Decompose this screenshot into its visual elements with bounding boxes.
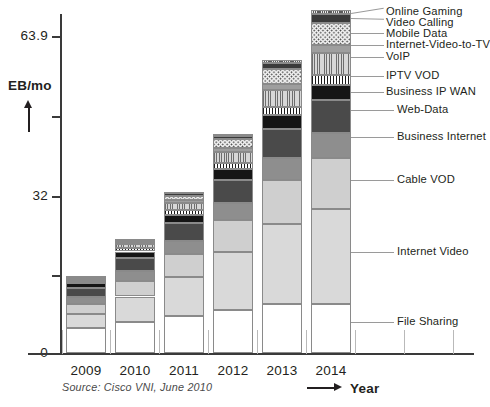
leader-line-video-calling [351,18,384,20]
leader-line-business-internet [351,137,394,138]
x-gridline [453,330,454,354]
segment-cable-vod [164,254,204,277]
segment-internet-video [213,252,253,310]
x-gridline [257,330,258,354]
x-axis-title: Year [350,381,379,396]
segment-iptv-vod [115,248,155,251]
segment-internet-video-to-tv [115,242,155,244]
segment-online-gaming [164,192,204,194]
leader-line-mobile-data [351,33,384,34]
segment-internet-video [262,224,302,305]
segment-voip [213,152,253,163]
segment-web-data [311,100,351,134]
segment-internet-video-to-tv [262,84,302,91]
bar-2014[interactable] [311,14,351,353]
segment-file-sharing [115,322,155,353]
segment-internet-video [311,209,351,304]
x-gridline [355,330,356,354]
segment-mobile-data [262,69,302,84]
bar-2012[interactable] [213,155,253,353]
segment-business-ip-wan [164,215,204,224]
leader-line-business-ip-wan [351,92,384,93]
legend-label-cable-vod: Cable VOD [397,174,455,185]
segment-business-ip-wan [115,252,155,259]
y-tick-32 [52,196,61,198]
leader-line-iptv-vod [351,76,384,77]
y-tick-63-9 [52,36,61,38]
y-axis-label-63-9: 63.9 [0,28,48,43]
y-axis-label-32: 32 [0,188,48,203]
y-tick-unlabeled-upper [52,116,61,118]
x-axis-arrow-icon [307,383,343,393]
legend-label-internet-video: Internet Video [397,246,469,257]
segment-file-sharing [66,328,106,353]
bar-2013[interactable] [262,100,302,353]
segment-online-gaming [115,239,155,241]
segment-voip [311,53,351,74]
legend-label-voip: VoIP [386,51,410,62]
segment-web-data [164,223,204,240]
segment-business-ip-wan [213,169,253,180]
segment-iptv-vod [213,163,253,170]
legend-label-internet-video-to-tv: Internet-Video-to-TV [386,39,490,50]
y-tick-unlabeled-lower [52,275,61,277]
legend-label-web-data: Web-Data [397,104,448,115]
segment-internet-video-to-tv [164,200,204,203]
segment-internet-video-to-tv [311,45,351,53]
segment-file-sharing [311,304,351,353]
y-axis-arrow-icon [24,100,34,134]
x-axis-line [28,353,474,355]
x-gridline [110,330,111,354]
segment-web-data [262,129,302,158]
y-axis-title: EB/mo [8,78,52,93]
x-axis-label-2014: 2014 [291,363,371,378]
legend-label-file-sharing: File Sharing [397,316,459,327]
segment-iptv-vod [311,75,351,85]
bar-2009[interactable] [66,277,106,353]
segment-video-calling [262,63,302,69]
segment-iptv-vod [164,210,204,215]
leader-line-cable-vod [351,180,394,181]
segment-internet-video [115,297,155,323]
x-gridline [306,330,307,354]
segment-mobile-data [164,196,204,200]
leader-line-internet-video [351,252,394,253]
segment-file-sharing [262,304,302,353]
leader-line-web-data [351,110,394,111]
segment-business-ip-wan [311,85,351,100]
bar-2011[interactable] [164,207,204,353]
segment-business-internet [164,241,204,254]
segment-iptv-vod [262,107,302,116]
segment-iptv-vod [66,281,106,283]
segment-business-internet [213,203,253,220]
segment-business-internet [115,271,155,281]
leader-line-online-gaming [351,8,384,14]
x-gridline [62,330,63,354]
segment-business-ip-wan [66,283,106,288]
leader-line-file-sharing [351,322,394,323]
segment-cable-vod [311,158,351,209]
segment-cable-vod [115,281,155,297]
legend-label-iptv-vod: IPTV VOD [386,70,439,81]
segment-cable-vod [262,180,302,224]
segment-online-gaming [311,10,351,14]
y-axis-line [60,14,62,354]
segment-mobile-data [311,23,351,45]
segment-web-data [115,258,155,271]
segment-business-internet [311,133,351,158]
segment-internet-video-to-tv [213,148,253,152]
segment-business-ip-wan [262,115,302,129]
segment-online-gaming [66,276,106,278]
x-gridline [404,330,405,354]
segment-online-gaming [262,60,302,63]
segment-video-calling [311,14,351,22]
segment-business-internet [262,158,302,180]
segment-voip [262,90,302,106]
x-gridline [208,330,209,354]
bar-2010[interactable] [115,245,155,353]
segment-cable-vod [213,220,253,252]
leader-line-voip [351,57,384,58]
legend-label-business-internet: Business Internet [397,131,486,142]
source-note: Source: Cisco VNI, June 2010 [62,381,212,393]
